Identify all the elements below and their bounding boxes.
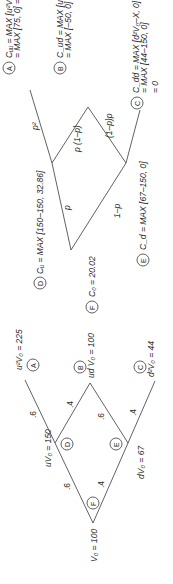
option-node-d: D Cᵤ = MAX [150–150, 32.86]	[34, 170, 46, 289]
svg-text:F: F	[89, 306, 96, 310]
stock-node-uu: A u²V₀ = 225	[14, 329, 39, 371]
stock-node-dd: C d²V₀ = 44	[134, 341, 156, 377]
prob-p-1mp: p (1–p)	[72, 125, 82, 153]
option-tree: p² p (1–p) (1–p)p p 1–p A Cᵤᵤ = MAX [u²V…	[3, 0, 160, 313]
stock-tree: .6 .4 .6 .4 .6 .4 A u²V₀ = 225 B ud V₀ =…	[14, 329, 156, 562]
value-cdd-result: = 0	[150, 81, 160, 93]
option-node-a: A Cᵤᵤ = MAX [u²V₀–X, 0] = MAX [75, 0] = …	[3, 0, 22, 74]
svg-text:B: B	[57, 66, 64, 71]
value-uu: u²V₀ = 225	[14, 329, 24, 370]
binomial-tree-diagram: p² p (1–p) (1–p)p p 1–p A Cᵤᵤ = MAX [u²V…	[0, 0, 173, 584]
edge-e-c	[126, 110, 140, 163]
edge-root-up	[55, 443, 93, 523]
option-node-f: F C₀ = 20.02	[86, 256, 98, 313]
value-down: dV₀ = 67	[136, 446, 146, 479]
svg-text:B: B	[77, 365, 84, 370]
svg-text:E: E	[113, 442, 120, 447]
stock-node-up: D uV₀ = 150	[43, 429, 73, 467]
prob-1mp-p: (1–p)p	[104, 113, 114, 138]
option-node-b: B C_ud = MAX [udV₀–X, 0] = MAX [–50, 0] …	[54, 0, 73, 74]
prob-uu: .6	[28, 411, 38, 418]
edge-d-b	[52, 107, 88, 163]
option-node-e: E C_d = MAX [67–150, 0]	[137, 161, 149, 266]
formula-cu: Cᵤ = MAX [150–150, 32.86]	[35, 170, 45, 274]
svg-text:D: D	[37, 281, 44, 286]
prob-p2: p²	[30, 121, 40, 131]
stock-node-down: E dV₀ = 67	[110, 438, 146, 479]
prob-ud-from-down: .6	[96, 413, 106, 420]
value-c0: C₀ = 20.02	[87, 256, 97, 297]
svg-text:D: D	[64, 442, 71, 447]
prob-p: p	[62, 205, 72, 211]
value-ud: ud V₀ = 100	[86, 333, 96, 378]
value-root: V₀ = 100	[89, 529, 99, 562]
prob-dd: .4	[128, 409, 138, 416]
value-up: uV₀ = 150	[43, 429, 53, 467]
svg-text:E: E	[140, 258, 147, 263]
svg-text:F: F	[90, 502, 97, 506]
value-cud: = MAX [–50, 0] = 0	[63, 0, 73, 58]
option-node-c: C C_dd = MAX [d²V₀–X, 0] = MAX [44–150, …	[131, 0, 160, 109]
stock-node-root: F V₀ = 100	[87, 497, 99, 562]
value-cdd: = MAX [44–150, 0]	[139, 22, 149, 93]
svg-text:A: A	[30, 363, 37, 368]
svg-text:C: C	[134, 101, 141, 106]
stock-node-ud: B ud V₀ = 100	[74, 333, 96, 378]
value-cuu: = MAX [75, 0] = 75	[12, 0, 22, 58]
svg-text:A: A	[6, 66, 13, 71]
prob-root-up: .6	[62, 483, 72, 490]
prob-ud-from-up: .4	[65, 401, 75, 408]
value-dd: d²V₀ = 44	[146, 341, 156, 377]
prob-1-minus-p: 1–p	[112, 204, 122, 218]
edge-up-ud	[55, 383, 90, 443]
svg-text:C: C	[137, 365, 144, 370]
prob-root-down: .4	[96, 481, 106, 488]
formula-cd: C_d = MAX [67–150, 0]	[138, 161, 148, 250]
